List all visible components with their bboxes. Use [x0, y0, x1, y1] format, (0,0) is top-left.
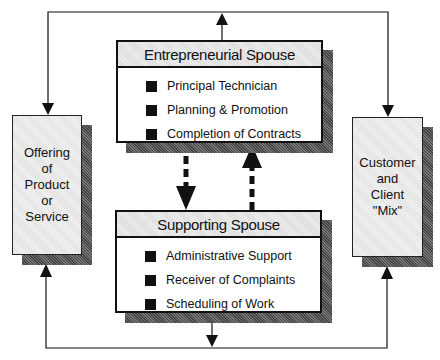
- square-bullet-icon: [145, 299, 156, 310]
- offering-line: or: [24, 193, 70, 209]
- customer-line: Client: [359, 187, 415, 203]
- item-label: Completion of Contracts: [167, 127, 301, 141]
- list-item: Receiver of Complaints: [145, 268, 320, 292]
- list-item: Completion of Contracts: [146, 122, 321, 146]
- item-label: Principal Technician: [167, 79, 277, 93]
- item-label: Scheduling of Work: [166, 297, 274, 311]
- offering-line: Offering: [24, 145, 70, 161]
- offering-box: Offering of Product or Service: [12, 115, 82, 255]
- square-bullet-icon: [146, 81, 157, 92]
- square-bullet-icon: [146, 129, 157, 140]
- offering-line: Service: [24, 209, 70, 225]
- item-label: Planning & Promotion: [167, 103, 288, 117]
- item-label: Administrative Support: [166, 249, 292, 263]
- square-bullet-icon: [145, 275, 156, 286]
- item-label: Receiver of Complaints: [166, 273, 295, 287]
- customer-line: Customer: [359, 155, 415, 171]
- customer-line: "Mix": [359, 203, 415, 219]
- list-item: Scheduling of Work: [145, 292, 320, 316]
- list-item: Principal Technician: [146, 74, 321, 98]
- list-item: Administrative Support: [145, 244, 320, 268]
- supporting-spouse-box: Supporting Spouse Administrative Support…: [115, 210, 322, 313]
- customer-box: Customer and Client "Mix": [352, 117, 423, 257]
- customer-line: and: [359, 171, 415, 187]
- square-bullet-icon: [145, 251, 156, 262]
- offering-line: Product: [24, 177, 70, 193]
- entrepreneurial-title: Entrepreneurial Spouse: [118, 42, 321, 68]
- square-bullet-icon: [146, 105, 157, 116]
- offering-line: of: [24, 161, 70, 177]
- entrepreneurial-spouse-box: Entrepreneurial Spouse Principal Technic…: [116, 40, 323, 143]
- supporting-title: Supporting Spouse: [117, 212, 320, 238]
- list-item: Planning & Promotion: [146, 98, 321, 122]
